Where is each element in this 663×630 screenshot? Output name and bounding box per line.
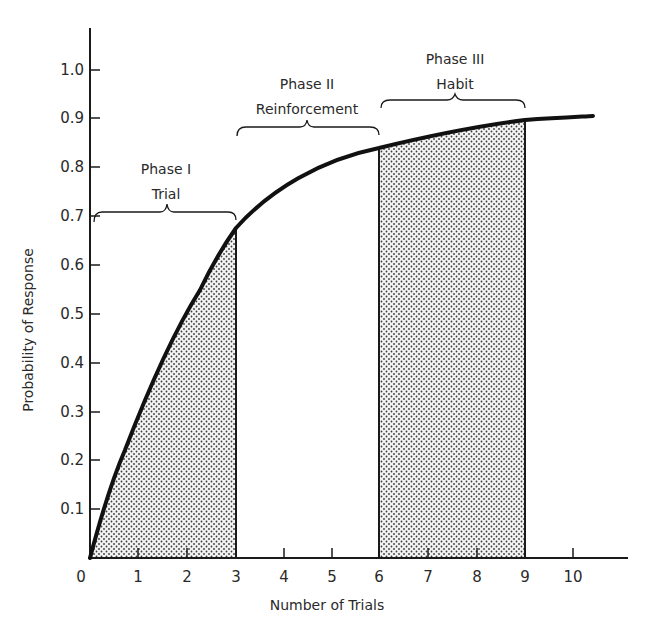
x-label-5: 5 xyxy=(327,568,337,586)
y-ticks xyxy=(90,70,100,509)
shaded-region-phase-1 xyxy=(90,228,236,558)
y-label-0.7: 0.7 xyxy=(60,207,84,225)
x-label-10: 10 xyxy=(563,568,582,586)
phase-1-title: Phase I xyxy=(141,161,191,177)
y-label-0.3: 0.3 xyxy=(60,403,84,421)
x-tick-labels: 0 1 2 3 4 5 6 7 8 9 10 xyxy=(76,568,582,586)
x-label-9: 9 xyxy=(520,568,530,586)
x-label-1: 1 xyxy=(133,568,143,586)
y-label-0.9: 0.9 xyxy=(60,109,84,127)
y-label-0.1: 0.1 xyxy=(60,500,84,518)
y-label-1.0: 1.0 xyxy=(60,61,84,79)
learning-curve-chart: 0.1 0.2 0.3 0.4 0.5 0.6 0.7 0.8 0.9 1.0 … xyxy=(0,0,663,630)
y-label-0.2: 0.2 xyxy=(60,451,84,469)
y-tick-labels: 0.1 0.2 0.3 0.4 0.5 0.6 0.7 0.8 0.9 1.0 xyxy=(60,61,84,518)
y-label-0.5: 0.5 xyxy=(60,305,84,323)
y-label-0.6: 0.6 xyxy=(60,256,84,274)
brace-phase-1 xyxy=(94,204,236,222)
x-label-4: 4 xyxy=(279,568,289,586)
phase-3-subtitle: Habit xyxy=(436,76,474,92)
phase-1-subtitle: Trial xyxy=(151,186,181,202)
phase-2-title: Phase II xyxy=(280,76,335,92)
x-label-3: 3 xyxy=(231,568,241,586)
phase-3-title: Phase III xyxy=(426,51,485,67)
x-label-6: 6 xyxy=(374,568,384,586)
shaded-region-phase-3 xyxy=(379,120,525,558)
y-label-0.8: 0.8 xyxy=(60,158,84,176)
brace-phase-2 xyxy=(237,120,379,136)
phase-2-subtitle: Reinforcement xyxy=(256,101,359,117)
y-label-0.4: 0.4 xyxy=(60,354,84,372)
x-label-2: 2 xyxy=(182,568,192,586)
x-label-7: 7 xyxy=(423,568,433,586)
x-label-0: 0 xyxy=(76,568,86,586)
x-axis-title: Number of Trials xyxy=(270,597,385,613)
y-axis-title: Probability of Response xyxy=(20,248,36,412)
x-label-8: 8 xyxy=(472,568,482,586)
brace-phase-3 xyxy=(381,94,525,108)
